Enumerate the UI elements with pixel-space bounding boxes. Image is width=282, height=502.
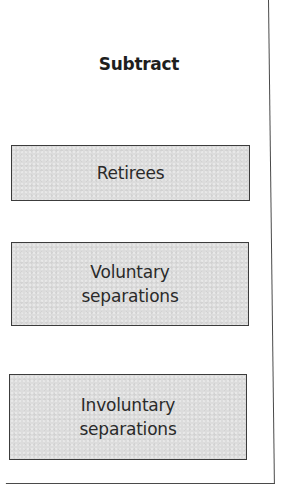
box-label-line-1: Voluntary — [90, 260, 169, 284]
box-involuntary-separations: Involuntary separations — [9, 374, 247, 460]
diagram-title: Subtract — [0, 54, 282, 74]
box-label-line-1: Involuntary — [81, 393, 175, 417]
box-label: Retirees — [97, 161, 165, 185]
box-label-line-2: separations — [81, 284, 178, 308]
box-retirees: Retirees — [11, 145, 250, 201]
box-voluntary-separations: Voluntary separations — [11, 242, 249, 326]
box-label-line-2: separations — [79, 417, 176, 441]
